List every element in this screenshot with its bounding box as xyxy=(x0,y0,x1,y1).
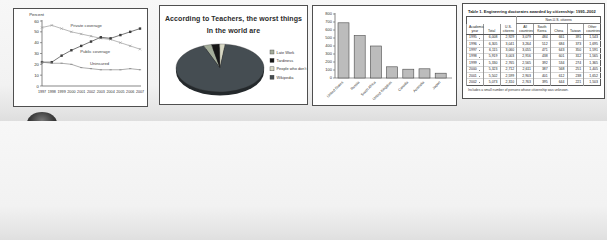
engineering-doctorates-table: Non-U.S. citizensAcademic yearTotalU.S. … xyxy=(466,16,601,86)
x-tick-label: Japan xyxy=(432,80,442,90)
value-cell: 2,310 xyxy=(500,79,517,85)
pie-title-line2: In the world are xyxy=(160,25,307,37)
column-header: Academic year xyxy=(467,24,484,35)
table-footnote: Includes a small number of persons whose… xyxy=(468,88,601,92)
value-cell: 2,763 xyxy=(517,79,534,85)
y-tick-label: 300 xyxy=(325,51,332,56)
column-header: U.S. citizens xyxy=(500,24,517,35)
marker xyxy=(90,40,92,42)
y-axis-title: Percent xyxy=(29,12,45,17)
column-header: South Korea xyxy=(534,24,551,35)
legend-swatch xyxy=(270,66,274,70)
value-cell: 1,503 xyxy=(584,79,601,85)
marker xyxy=(100,36,102,38)
column-header: China xyxy=(550,24,567,35)
series-label: Private coverage xyxy=(70,23,102,28)
x-tick-label: 2004 xyxy=(106,90,114,94)
y-tick-label: 10 xyxy=(34,73,39,78)
year-cell: 2002 xyxy=(467,79,484,85)
y-tick-label: 700 xyxy=(325,19,332,24)
bar xyxy=(354,36,365,78)
bar xyxy=(403,69,414,78)
bar xyxy=(435,73,446,78)
marker xyxy=(109,37,111,39)
y-tick-label: 400 xyxy=(325,43,332,48)
data-table: Non-U.S. citizensAcademic yearTotalU.S. … xyxy=(466,16,601,86)
value-cell: 395 xyxy=(534,79,551,85)
marker xyxy=(70,49,72,51)
bar-chart-panel: 0100200300400500600700800United StatesRu… xyxy=(312,5,457,106)
table-panel: Table 1. Engineering doctorates awarded … xyxy=(462,3,605,99)
legend-swatch xyxy=(270,75,274,79)
legend-label: Tardiness xyxy=(277,57,294,62)
y-tick-label: 100 xyxy=(325,67,332,72)
bar-chart: 0100200300400500600700800United StatesRu… xyxy=(313,6,456,105)
column-header: Taiwan xyxy=(567,24,584,35)
y-tick-label: 50 xyxy=(34,29,39,34)
y-tick-label: 500 xyxy=(325,35,332,40)
series-label: Public coverage xyxy=(80,49,110,54)
table-row: 20025,0732,3102,7633956442211,503 xyxy=(467,79,601,85)
marker xyxy=(60,54,62,56)
x-tick-label: 1997 xyxy=(38,90,46,94)
line-chart-panel: Percent010203040506019971998199920002001… xyxy=(13,8,148,107)
x-tick-label: Russia xyxy=(350,80,361,91)
y-tick-label: 30 xyxy=(34,51,39,56)
pie-chart-panel: According to Teachers, the worst things … xyxy=(159,5,308,105)
y-tick-label: 60 xyxy=(34,19,39,24)
y-tick-label: 20 xyxy=(34,62,39,67)
x-tick-label: Australia xyxy=(412,80,425,93)
x-tick-label: 2000 xyxy=(67,90,75,94)
pie-title-line1: According to Teachers, the worst things xyxy=(160,13,307,25)
line-chart: Percent010203040506019971998199920002001… xyxy=(14,9,147,106)
partial-logo-ellipse xyxy=(27,112,57,121)
legend-label: Late Work xyxy=(277,49,295,54)
x-tick-label: 2007 xyxy=(136,90,144,94)
marker xyxy=(129,31,131,33)
x-tick-label: 1999 xyxy=(57,90,65,94)
column-header: All countries xyxy=(517,24,534,35)
y-tick-label: 200 xyxy=(325,59,332,64)
y-tick-label: 0 xyxy=(36,84,39,89)
pie-chart: Late WorkTardinessPeople who don't tryWi… xyxy=(160,38,307,102)
series-line xyxy=(42,29,140,63)
value-cell: 5,073 xyxy=(483,79,500,85)
column-header: Other countries xyxy=(584,24,601,35)
pie-chart-title: According to Teachers, the worst things … xyxy=(160,6,307,38)
group-header: Non-U.S. citizens xyxy=(517,17,601,24)
series-line xyxy=(42,25,140,49)
value-cell: 221 xyxy=(567,79,584,85)
bar xyxy=(387,67,398,78)
bar xyxy=(419,69,430,78)
column-header: Total xyxy=(483,24,500,35)
bar xyxy=(370,46,381,78)
x-tick-label: 2001 xyxy=(77,90,85,94)
y-tick-label: 600 xyxy=(325,27,332,32)
x-tick-label: 2006 xyxy=(126,90,134,94)
y-tick-label: 800 xyxy=(325,11,332,16)
x-tick-label: 2005 xyxy=(116,90,124,94)
spacer-header xyxy=(467,17,517,24)
marker xyxy=(119,34,121,36)
legend-swatch xyxy=(270,50,274,54)
bar xyxy=(338,23,349,78)
legend-label: Wikipedia xyxy=(277,74,295,79)
x-tick-label: Canada xyxy=(397,80,409,92)
legend-label: People who don't try xyxy=(277,66,308,71)
y-tick-label: 0 xyxy=(330,75,333,80)
table-title: Table 1. Engineering doctorates awarded … xyxy=(468,9,601,14)
series-label: Uninsured xyxy=(90,61,110,66)
legend-swatch xyxy=(270,58,274,62)
x-tick-label: South Africa xyxy=(360,80,377,97)
marker xyxy=(80,45,82,47)
x-tick-label: 1998 xyxy=(48,90,56,94)
y-tick-label: 40 xyxy=(34,40,39,45)
marker xyxy=(139,27,141,29)
x-tick-label: United States xyxy=(326,80,344,98)
x-tick-label: 2003 xyxy=(97,90,105,94)
x-tick-label: 2002 xyxy=(87,90,95,94)
value-cell: 644 xyxy=(550,79,567,85)
